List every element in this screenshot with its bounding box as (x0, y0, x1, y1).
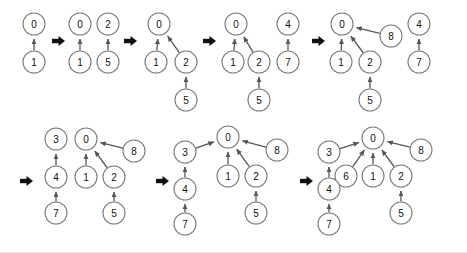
graph-node-0: 0 (217, 126, 239, 148)
graph-node-1: 1 (75, 166, 97, 188)
graph-node-1: 1 (222, 51, 244, 73)
graph-edge-2-to-0 (168, 36, 180, 52)
node-circle (277, 51, 299, 73)
node-circle (45, 128, 67, 150)
arrow-shaft (52, 39, 60, 43)
arrow-shaft (20, 179, 28, 183)
graph-node-0: 0 (69, 13, 91, 35)
node-circle (45, 202, 67, 224)
node-circle (245, 202, 267, 224)
arrow-head (163, 176, 170, 186)
node-circle (97, 13, 119, 35)
node-circle (145, 51, 167, 73)
node-circle (75, 166, 97, 188)
node-circle (217, 165, 239, 187)
graph-node-7: 7 (318, 213, 340, 235)
node-circle (75, 128, 97, 150)
node-circle (248, 89, 270, 111)
node-circle (408, 13, 430, 35)
graph-node-2: 2 (359, 51, 381, 73)
node-circle (410, 139, 432, 161)
graph-edge-2-to-0 (237, 149, 250, 166)
node-circle (362, 165, 384, 187)
graph-sequence-diagram: 0102150125041275084127530841275038124570… (0, 0, 467, 253)
arrow-shaft (300, 179, 308, 183)
graph-node-8: 8 (266, 139, 288, 161)
node-circle (266, 139, 288, 161)
graph-node-0: 0 (331, 13, 353, 35)
arrow-shaft (156, 179, 164, 183)
graph-node-2: 2 (103, 166, 125, 188)
graph-node-5: 5 (359, 89, 381, 111)
graph-edge-1-to-0 (157, 39, 158, 51)
step-transition-arrow (156, 176, 169, 186)
node-circle (318, 141, 340, 163)
graph-edge-2-to-0 (95, 151, 107, 168)
graph-edge-6-to-0 (353, 150, 365, 166)
graph-node-2: 2 (390, 165, 412, 187)
graph-node-5: 5 (248, 89, 270, 111)
node-circle (277, 13, 299, 35)
node-circle (97, 51, 119, 73)
graph-node-7: 7 (277, 51, 299, 73)
node-circle (175, 51, 197, 73)
node-circle (390, 202, 412, 224)
graph-node-7: 7 (408, 51, 430, 73)
graph-edge-8-to-0 (357, 28, 380, 34)
arrow-shaft (312, 39, 320, 43)
graph-node-5: 5 (245, 202, 267, 224)
node-circle (123, 140, 145, 162)
graph-node-2: 2 (245, 165, 267, 187)
graph-node-5: 5 (175, 89, 197, 111)
node-circle (174, 213, 196, 235)
node-circle (330, 51, 352, 73)
graph-node-2: 2 (175, 51, 197, 73)
node-circle (225, 13, 247, 35)
graph-node-1: 1 (217, 165, 239, 187)
arrow-head (59, 36, 66, 46)
graph-node-4: 4 (408, 13, 430, 35)
graph-node-1: 1 (69, 51, 91, 73)
node-circle (103, 166, 125, 188)
node-circle (174, 141, 196, 163)
step-transition-arrow (300, 176, 313, 186)
arrow-head (131, 36, 138, 46)
graph-edge-2-to-0 (244, 37, 253, 52)
graph-edge-2-to-0 (382, 150, 394, 167)
node-circle (362, 127, 384, 149)
node-circle (103, 202, 125, 224)
node-circle (318, 213, 340, 235)
graph-node-5: 5 (103, 202, 125, 224)
node-circle (248, 51, 270, 73)
node-circle (380, 25, 402, 47)
graph-edge-8-to-0 (101, 143, 123, 149)
arrow-head (307, 176, 314, 186)
graph-node-2: 2 (97, 13, 119, 35)
step-transition-arrow (52, 36, 65, 46)
node-circle (318, 178, 340, 200)
node-circle (45, 166, 67, 188)
graph-node-3: 3 (174, 141, 196, 163)
graph-node-4: 4 (277, 13, 299, 35)
node-circle (408, 51, 430, 73)
node-circle (331, 13, 353, 35)
step-transition-arrow (203, 36, 216, 46)
graph-node-2: 2 (248, 51, 270, 73)
graph-edge-8-to-0 (388, 142, 410, 148)
node-circle (359, 89, 381, 111)
arrow-head (210, 36, 217, 46)
graph-node-4: 4 (318, 178, 340, 200)
step-transition-arrow (124, 36, 137, 46)
node-circle (175, 89, 197, 111)
node-circle (23, 13, 45, 35)
arrow-shaft (124, 39, 132, 43)
node-circle (69, 51, 91, 73)
node-circle (359, 51, 381, 73)
graph-node-3: 3 (45, 128, 67, 150)
graph-node-1: 1 (23, 51, 45, 73)
graph-node-8: 8 (123, 140, 145, 162)
graph-node-0: 0 (225, 13, 247, 35)
graph-node-3: 3 (318, 141, 340, 163)
node-circle (217, 126, 239, 148)
step-transition-arrow (312, 36, 325, 46)
